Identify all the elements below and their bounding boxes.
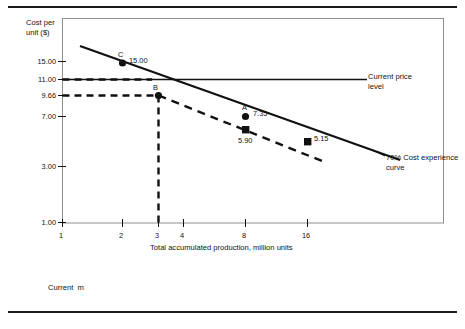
x-tick-label-8: 8 <box>242 231 246 240</box>
x-tick-label-2: 2 <box>119 231 123 240</box>
point-value-515: 5.15 <box>314 134 328 143</box>
data-point-a[interactable] <box>242 113 249 120</box>
y-tick-label-7: 7.00 <box>18 112 56 121</box>
y-axis-title: Cost perunit ($) <box>26 18 55 38</box>
point-label-b: B <box>153 83 158 92</box>
point-value-590: 5.90 <box>238 136 252 145</box>
price-annotation-line1: Current price <box>368 72 412 81</box>
price-annotation-line2: level <box>368 82 384 91</box>
current-price-level-annotation: Current pricelevel <box>368 72 412 91</box>
data-point-b[interactable] <box>155 92 162 99</box>
x-axis-title: Total accumulated production, million un… <box>150 243 293 252</box>
x-tick-label-16: 16 <box>302 231 310 240</box>
data-point-c[interactable] <box>119 59 126 66</box>
y-tick-label-11: 11.00 <box>18 75 56 84</box>
y-tick-label-966: 9.66 <box>18 91 56 100</box>
data-point-5-90[interactable] <box>242 126 249 133</box>
y-axis-title-line2: unit ($) <box>26 28 50 37</box>
lower-experience-curve-line <box>159 96 323 162</box>
curve-annotation-line1: 70% Cost experience <box>386 153 458 162</box>
curve-annotation-line2: curve <box>386 163 405 172</box>
legend-title: Current m <box>48 283 120 294</box>
point-label-a: A <box>242 103 247 112</box>
point-value-c: 15.00 <box>129 56 148 65</box>
point-label-c: C <box>118 50 123 59</box>
x-tick-label-3: 3 <box>155 231 159 240</box>
x-tick-label-4: 4 <box>180 231 184 240</box>
cost-experience-curve-chart: Cost perunit ($) 15.00 11.00 9.66 7.00 3… <box>0 0 465 329</box>
point-value-a: 7.35 <box>253 109 267 118</box>
y-tick-label-15: 15.00 <box>18 57 56 66</box>
y-tick-label-1: 1.00 <box>18 218 56 227</box>
y-tick-label-3: 3.00 <box>18 162 56 171</box>
x-tick-label-1: 1 <box>59 231 63 240</box>
data-point-5-15[interactable] <box>304 138 311 145</box>
y-axis-title-line1: Cost per <box>26 18 55 27</box>
legend: Current m A = 50 percent B = 30 percent … <box>48 262 120 329</box>
cost-experience-curve-annotation: 70% Cost experiencecurve <box>386 153 458 172</box>
